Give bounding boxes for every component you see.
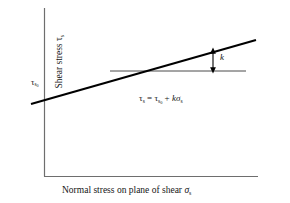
x-axis-title: Normal stress on plane of shear σs bbox=[62, 186, 191, 196]
equation-equals: = bbox=[145, 93, 155, 103]
x-axis-symbol-subscript: s bbox=[189, 190, 191, 196]
intercept-subscript: s0 bbox=[34, 81, 38, 87]
tau-intercept-label: τs0 bbox=[31, 78, 39, 87]
y-axis-symbol: τ bbox=[54, 37, 64, 41]
y-axis-title: Shear stress τs bbox=[55, 12, 65, 112]
equation-plus: + bbox=[162, 93, 172, 103]
y-axis-title-text: Shear stress bbox=[54, 41, 64, 89]
y-axis-symbol-subscript: s bbox=[59, 35, 65, 37]
intercept-subscript-zero: 0 bbox=[36, 83, 38, 88]
shear-strength-diagram: Shear stress τs Normal stress on plane o… bbox=[0, 0, 290, 203]
equation-label: τs = τs0 + kσs bbox=[139, 94, 183, 103]
equation-sigma-subscript: s bbox=[180, 98, 182, 104]
x-axis-title-text: Normal stress on plane of shear bbox=[62, 185, 184, 195]
slope-k-label: k bbox=[220, 53, 224, 62]
